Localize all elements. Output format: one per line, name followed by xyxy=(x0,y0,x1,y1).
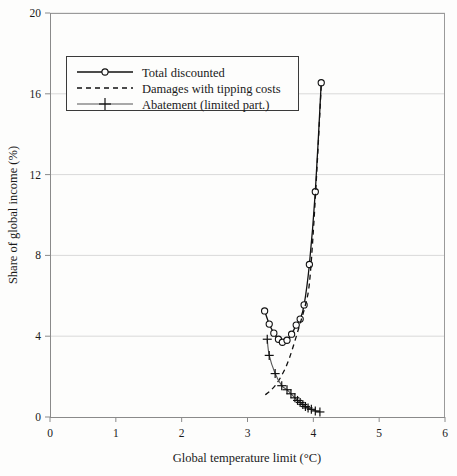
x-tick-label-0: 0 xyxy=(47,427,53,439)
data-point-marker xyxy=(262,308,268,314)
data-point-marker xyxy=(318,80,324,86)
y-tick-label-8: 8 xyxy=(35,249,41,261)
x-tick-label-6: 6 xyxy=(442,427,448,439)
y-tick-label-16: 16 xyxy=(30,88,42,100)
chart-legend: Total discounted Damages with tipping co… xyxy=(67,57,299,112)
circle-marker-icon xyxy=(102,69,108,75)
y-tick-label-0: 0 xyxy=(35,411,41,423)
legend-label-total-discounted: Total discounted xyxy=(142,66,226,80)
y-axis-title: Share of global income (%) xyxy=(6,146,20,284)
x-tick-label-1: 1 xyxy=(113,427,119,439)
legend-label-abatement: Abatement (limited part.) xyxy=(142,98,269,112)
legend-label-damages: Damages with tipping costs xyxy=(142,82,281,96)
x-axis-title: Global temperature limit (°C) xyxy=(173,451,321,465)
line-chart: 048121620 0123456 Share of global income… xyxy=(0,0,457,476)
x-tick-label-2: 2 xyxy=(179,427,185,439)
data-point-marker xyxy=(306,261,312,267)
y-tick-label-4: 4 xyxy=(35,330,41,342)
x-tick-label-3: 3 xyxy=(245,427,251,439)
data-point-marker xyxy=(284,337,290,343)
x-tick-label-5: 5 xyxy=(376,427,382,439)
data-point-marker xyxy=(266,321,272,327)
x-tick-label-4: 4 xyxy=(310,427,316,439)
chart-figure: 048121620 0123456 Share of global income… xyxy=(0,0,457,476)
y-tick-label-20: 20 xyxy=(30,7,42,19)
data-point-marker xyxy=(289,331,295,337)
y-tick-label-12: 12 xyxy=(30,169,42,181)
data-point-marker xyxy=(271,330,277,336)
